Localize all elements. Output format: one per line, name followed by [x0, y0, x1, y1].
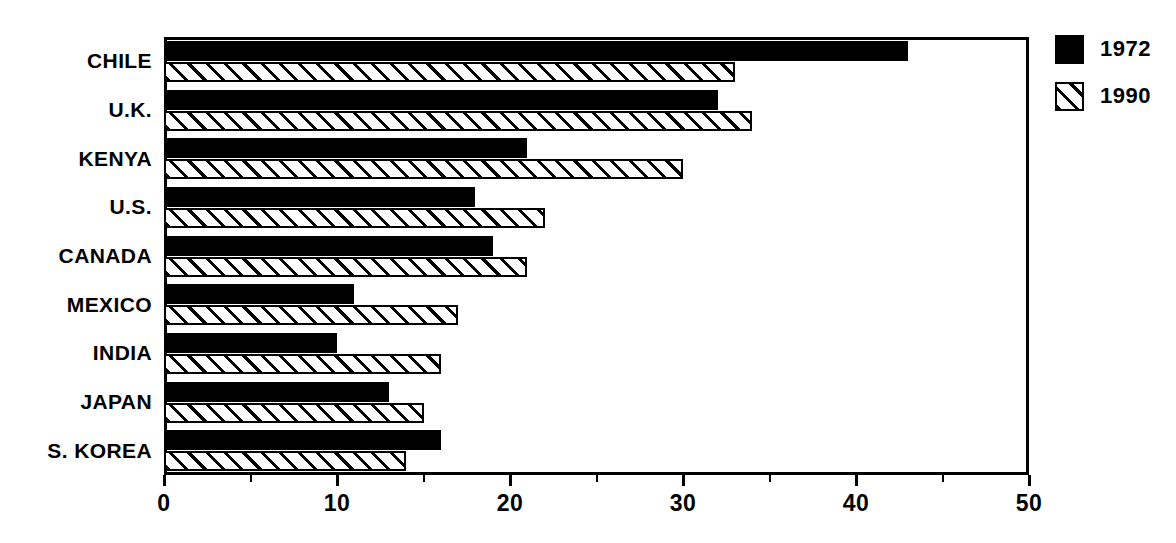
category-label-mexico: MEXICO	[0, 294, 152, 315]
x-tick-0	[163, 475, 166, 486]
category-label-chile: CHILE	[0, 50, 152, 71]
x-axis: 01020304050	[164, 475, 1029, 535]
category-label-u-s: U.S.	[0, 196, 152, 217]
chart-legend: 19721990	[1055, 34, 1175, 128]
x-tick-40	[855, 475, 858, 486]
x-tick-minor-25	[596, 475, 598, 482]
x-tick-minor-15	[423, 475, 425, 482]
legend-swatch-1990	[1055, 82, 1084, 111]
legend-item-1972[interactable]: 1972	[1055, 34, 1175, 64]
category-label-japan: JAPAN	[0, 391, 152, 412]
legend-swatch-1972	[1055, 35, 1084, 64]
x-tick-20	[509, 475, 512, 486]
legend-label-1972: 1972	[1100, 36, 1151, 62]
x-tick-minor-45	[942, 475, 944, 482]
x-tick-label-10: 10	[324, 490, 351, 517]
x-tick-label-20: 20	[497, 490, 524, 517]
x-tick-minor-5	[250, 475, 252, 482]
bar-chart: CHILEU.K.KENYAU.S.CANADAMEXICOINDIAJAPAN…	[0, 0, 1176, 543]
x-tick-30	[682, 475, 685, 486]
category-label-kenya: KENYA	[0, 148, 152, 169]
x-tick-10	[336, 475, 339, 486]
category-axis: CHILEU.K.KENYAU.S.CANADAMEXICOINDIAJAPAN…	[0, 37, 152, 475]
legend-item-1990[interactable]: 1990	[1055, 81, 1175, 111]
x-tick-minor-35	[769, 475, 771, 482]
x-tick-50	[1028, 475, 1031, 486]
plot-frame	[164, 37, 1029, 475]
x-tick-label-50: 50	[1016, 490, 1043, 517]
category-label-s-korea: S. KOREA	[0, 440, 152, 461]
category-label-india: INDIA	[0, 342, 152, 363]
category-label-u-k: U.K.	[0, 99, 152, 120]
x-tick-label-30: 30	[670, 490, 697, 517]
x-tick-label-0: 0	[157, 490, 170, 517]
legend-label-1990: 1990	[1100, 83, 1151, 109]
category-label-canada: CANADA	[0, 245, 152, 266]
x-tick-label-40: 40	[843, 490, 870, 517]
